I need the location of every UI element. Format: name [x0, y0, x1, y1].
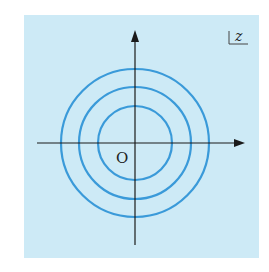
- concentric-circles-diagram: O z: [0, 0, 269, 272]
- z-label: z: [234, 28, 243, 44]
- z-plane-marker: z: [229, 28, 248, 44]
- origin-label: O: [116, 149, 128, 167]
- y-axis-arrowhead-icon: [131, 30, 139, 42]
- x-axis-arrowhead-icon: [234, 139, 245, 147]
